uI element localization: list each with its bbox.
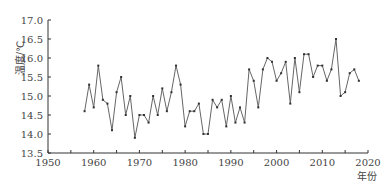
data-point-markers: [84, 38, 360, 139]
x-tick-label: 2000: [264, 157, 289, 168]
data-point: [358, 80, 360, 82]
data-point: [129, 95, 131, 97]
data-point: [340, 95, 342, 97]
data-point: [262, 68, 264, 70]
data-point: [266, 57, 268, 59]
data-point: [234, 122, 236, 124]
data-point: [280, 72, 282, 74]
y-tick-label: 14.5: [21, 110, 43, 121]
x-tick-label: 1970: [127, 157, 152, 168]
data-point: [134, 137, 136, 139]
data-point: [330, 68, 332, 70]
data-point: [317, 65, 319, 67]
data-point: [198, 103, 200, 105]
data-point: [298, 91, 300, 93]
data-point: [88, 84, 90, 86]
data-point: [216, 106, 218, 108]
data-point: [289, 103, 291, 105]
x-tick-label: 2010: [310, 157, 335, 168]
data-point: [239, 106, 241, 108]
data-point: [335, 38, 337, 40]
data-point: [308, 53, 310, 55]
data-point: [248, 68, 250, 70]
data-point: [152, 95, 154, 97]
data-point: [189, 110, 191, 112]
y-tick-label: 17.0: [21, 15, 43, 26]
data-point: [244, 122, 246, 124]
data-point: [253, 80, 255, 82]
data-point: [221, 99, 223, 101]
data-point: [102, 99, 104, 101]
data-point: [97, 65, 99, 67]
data-point: [111, 129, 113, 131]
data-point: [116, 91, 118, 93]
data-point: [84, 110, 86, 112]
y-axis-ticks: 13.514.014.515.015.516.016.517.0: [21, 15, 51, 159]
data-point: [285, 61, 287, 63]
data-point: [125, 114, 127, 116]
x-tick-label: 1980: [172, 157, 197, 168]
x-tick-label: 1990: [218, 157, 243, 168]
y-tick-label: 15.0: [21, 91, 43, 102]
data-point: [230, 95, 232, 97]
data-point: [157, 114, 159, 116]
data-point: [120, 76, 122, 78]
x-tick-label: 1960: [81, 157, 106, 168]
data-point: [93, 106, 95, 108]
data-point: [312, 76, 314, 78]
x-tick-label: 1950: [35, 157, 60, 168]
data-point: [207, 133, 209, 135]
data-point: [180, 84, 182, 86]
data-point: [212, 99, 214, 101]
data-point: [303, 53, 305, 55]
data-point: [170, 91, 172, 93]
data-point: [276, 80, 278, 82]
x-tick-label: 2020: [355, 157, 380, 168]
data-point: [106, 103, 108, 105]
data-point: [294, 57, 296, 59]
data-point: [225, 125, 227, 127]
data-point: [353, 68, 355, 70]
data-point: [184, 125, 186, 127]
data-point: [138, 114, 140, 116]
x-axis-title: 年份: [357, 170, 377, 182]
data-point: [166, 110, 168, 112]
data-point: [175, 65, 177, 67]
data-point: [202, 133, 204, 135]
data-point: [161, 87, 163, 89]
temperature-line-chart: 13.514.014.515.015.516.016.517.0 1950196…: [0, 0, 389, 187]
data-point: [326, 80, 328, 82]
temperature-series-line: [85, 39, 359, 138]
data-point: [257, 106, 259, 108]
data-point: [349, 72, 351, 74]
y-axis-title: 温度/℃: [14, 41, 26, 76]
data-point: [143, 114, 145, 116]
data-point: [193, 110, 195, 112]
data-point: [321, 65, 323, 67]
data-point: [271, 61, 273, 63]
y-tick-label: 14.0: [21, 129, 43, 140]
data-point: [148, 122, 150, 124]
data-point: [344, 91, 346, 93]
